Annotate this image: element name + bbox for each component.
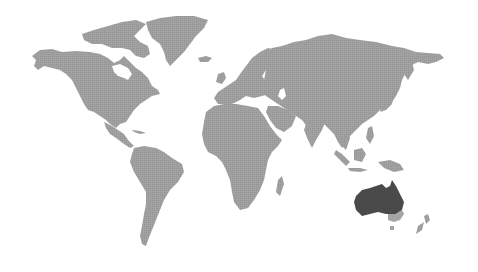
world-map	[0, 0, 478, 272]
region-sumatra[interactable]	[334, 150, 350, 166]
region-arctic-archipelago[interactable]	[82, 20, 150, 58]
region-north-america[interactable]	[32, 49, 160, 128]
region-iceland[interactable]	[198, 56, 212, 62]
region-tasmania[interactable]	[390, 226, 394, 230]
region-uk[interactable]	[216, 72, 226, 84]
region-central-america[interactable]	[104, 122, 134, 148]
region-madagascar[interactable]	[276, 176, 284, 196]
region-australia[interactable]	[354, 180, 404, 216]
region-caribbean[interactable]	[132, 130, 146, 134]
region-new-zealand-north[interactable]	[424, 214, 430, 224]
region-new-zealand-south[interactable]	[416, 222, 424, 234]
region-borneo[interactable]	[354, 148, 366, 162]
region-south-america[interactable]	[130, 146, 184, 246]
region-new-guinea[interactable]	[378, 160, 404, 172]
region-asia[interactable]	[262, 34, 444, 148]
region-philippines[interactable]	[366, 126, 374, 144]
region-india[interactable]	[304, 116, 326, 148]
region-java[interactable]	[348, 168, 368, 172]
